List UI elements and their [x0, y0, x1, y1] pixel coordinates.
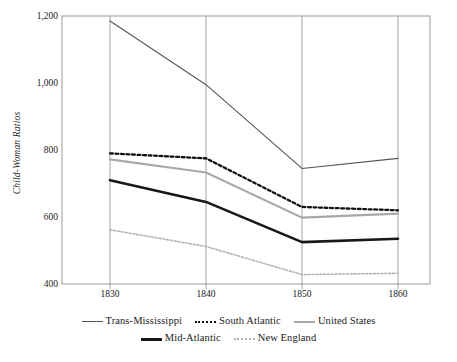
x-tick-label: 1830 — [80, 289, 140, 299]
grid-lines — [110, 16, 398, 289]
legend-label: United States — [318, 315, 376, 326]
legend-swatch-icon — [141, 334, 162, 342]
legend-item-south-atlantic[interactable]: South Atlantic — [195, 315, 281, 326]
legend-swatch-icon — [234, 334, 255, 342]
x-tick-label: 1860 — [368, 289, 428, 299]
child-woman-ratios-line-chart: 1,2001,000800600400 Child-Woman Ratios 1… — [0, 0, 457, 362]
series-line-new-england — [110, 230, 398, 275]
legend-item-new-england[interactable]: New England — [234, 332, 317, 343]
plot-area — [0, 0, 457, 362]
legend-swatch-icon — [294, 317, 315, 325]
plot-border — [62, 16, 430, 284]
data-series-layer — [110, 21, 398, 275]
series-line-trans-mississippi — [110, 21, 398, 168]
legend-item-mid-atlantic[interactable]: Mid-Atlantic — [141, 332, 221, 343]
legend-label: New England — [258, 332, 317, 343]
x-tick-label: 1850 — [272, 289, 332, 299]
legend-row: Trans-MississippiSouth AtlanticUnited St… — [0, 312, 457, 329]
legend-item-trans-mississippi[interactable]: Trans-Mississippi — [82, 315, 183, 326]
series-line-south-atlantic — [110, 153, 398, 210]
legend-label: Trans-Mississippi — [106, 315, 183, 326]
chart-legend: Trans-MississippiSouth AtlanticUnited St… — [0, 312, 457, 346]
legend-label: South Atlantic — [219, 315, 281, 326]
legend-swatch-icon — [82, 317, 103, 325]
legend-label: Mid-Atlantic — [165, 332, 221, 343]
legend-swatch-icon — [195, 317, 216, 325]
series-line-mid-atlantic — [110, 180, 398, 242]
plot-frame — [62, 16, 430, 284]
legend-row: Mid-AtlanticNew England — [0, 329, 457, 346]
x-tick-label: 1840 — [176, 289, 236, 299]
legend-item-united-states[interactable]: United States — [294, 315, 376, 326]
